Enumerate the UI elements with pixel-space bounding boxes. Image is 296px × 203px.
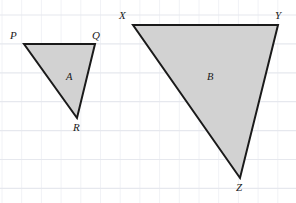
vertex-label-q: Q xyxy=(92,30,100,41)
vertex-label-p: P xyxy=(10,30,17,41)
triangles-layer xyxy=(0,0,296,203)
region-label-a: A xyxy=(66,72,72,83)
region-label-b: B xyxy=(207,72,213,83)
vertex-label-y: Y xyxy=(275,10,281,21)
vertex-label-x: X xyxy=(119,10,126,21)
vertex-label-z: Z xyxy=(236,182,242,193)
triangle-b xyxy=(133,25,278,178)
triangle-a xyxy=(24,44,95,118)
vertex-label-r: R xyxy=(73,122,80,133)
geometry-diagram-canvas: PQRAXYZB xyxy=(0,0,296,203)
